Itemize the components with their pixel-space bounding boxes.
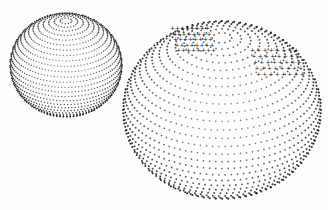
large-dotted-sphere: ++++++++++++++++++++++++++++++++++++++++… bbox=[122, 20, 322, 200]
dotted-spheres-image: ++++++++++++++++++++++++++++++++++++++++… bbox=[0, 0, 328, 210]
dark-band-marks-left: ++++++++++++++++++++++++++++++++++++++++ bbox=[170, 24, 216, 53]
svg-text:+: + bbox=[275, 70, 280, 77]
spheres-canvas: ++++++++++++++++++++++++++++++++++++++++… bbox=[0, 0, 328, 210]
svg-text:+: + bbox=[281, 70, 286, 77]
svg-text:+: + bbox=[211, 46, 216, 53]
svg-text:+: + bbox=[300, 70, 305, 77]
svg-text:+: + bbox=[294, 70, 299, 77]
svg-text:+: + bbox=[256, 70, 261, 77]
small-dotted-sphere bbox=[9, 12, 123, 118]
svg-text:+: + bbox=[262, 70, 267, 77]
svg-text:+: + bbox=[287, 70, 292, 77]
svg-text:+: + bbox=[269, 70, 274, 77]
